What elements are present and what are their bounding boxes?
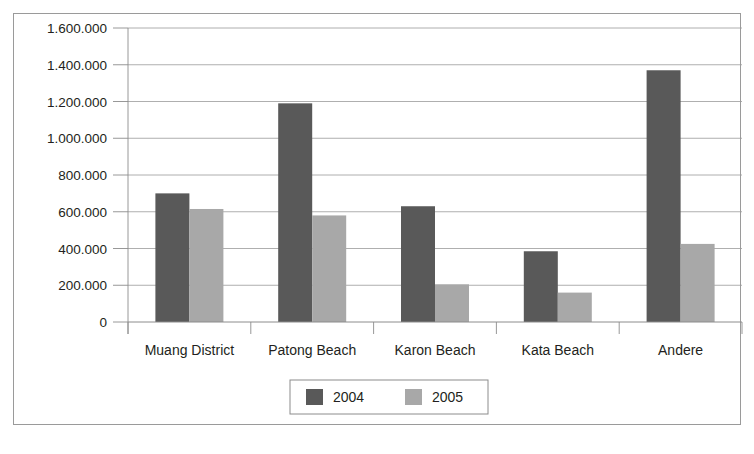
y-axis-tick-label: 600.000 xyxy=(58,205,107,220)
x-axis-category-label: Muang District xyxy=(145,342,235,358)
bar xyxy=(312,215,346,322)
y-axis-tick-label: 1.000.000 xyxy=(47,131,107,146)
bar xyxy=(278,103,312,322)
legend-swatch xyxy=(405,389,422,405)
y-axis-tick-marks xyxy=(113,28,128,322)
chart-figure: 0200.000400.000600.000800.0001.000.0001.… xyxy=(0,0,754,454)
x-axis-category-label: Andere xyxy=(658,342,703,358)
bar xyxy=(558,293,592,322)
y-axis-tick-label: 200.000 xyxy=(58,278,107,293)
chart-legend: 20042005 xyxy=(290,380,488,414)
y-axis-tick-label: 1.400.000 xyxy=(47,58,107,73)
bar xyxy=(435,284,469,322)
bar xyxy=(155,193,189,322)
y-axis-tick-label: 800.000 xyxy=(58,168,107,183)
y-axis-tick-label: 400.000 xyxy=(58,242,107,257)
legend-swatch xyxy=(306,389,323,405)
x-axis-category-separators xyxy=(128,322,742,334)
bar xyxy=(401,206,435,322)
x-axis-category-label: Kata Beach xyxy=(522,342,594,358)
bar xyxy=(647,70,681,322)
bar xyxy=(524,251,558,322)
bars-group xyxy=(155,70,714,322)
y-axis-tick-labels: 0200.000400.000600.000800.0001.000.0001.… xyxy=(47,21,107,330)
y-axis-tick-label: 1.600.000 xyxy=(47,21,107,36)
x-axis-category-label: Patong Beach xyxy=(268,342,356,358)
y-axis-tick-label: 0 xyxy=(99,315,107,330)
legend-label: 2005 xyxy=(432,389,463,405)
x-axis-category-label: Karon Beach xyxy=(395,342,476,358)
bar xyxy=(189,209,223,322)
bar xyxy=(681,244,715,322)
x-axis-category-labels: Muang DistrictPatong BeachKaron BeachKat… xyxy=(145,342,704,358)
bar-chart-plot: 0200.000400.000600.000800.0001.000.0001.… xyxy=(0,0,754,454)
legend-label: 2004 xyxy=(333,389,364,405)
y-axis-tick-label: 1.200.000 xyxy=(47,95,107,110)
